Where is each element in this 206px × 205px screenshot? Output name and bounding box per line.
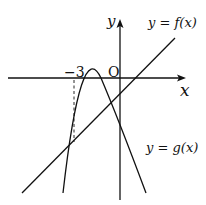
label-f: y = f(x) xyxy=(148,15,197,30)
y-axis-label: y xyxy=(107,12,115,30)
parabola-g xyxy=(63,69,146,193)
tick-label-minus-3: −3 xyxy=(64,64,85,80)
x-axis-label: x xyxy=(180,80,190,100)
label-g: y = g(x) xyxy=(146,140,198,155)
graph-figure: −3 O y x y = f(x) y = g(x) xyxy=(0,0,206,205)
origin-label: O xyxy=(108,64,119,80)
line-f xyxy=(22,38,175,193)
graph-canvas xyxy=(0,0,206,205)
